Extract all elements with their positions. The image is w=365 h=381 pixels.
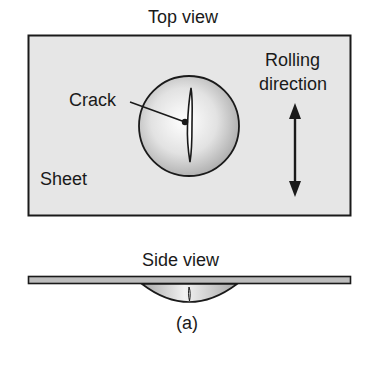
side-view-title: Side view bbox=[142, 251, 219, 269]
sheet-label: Sheet bbox=[40, 170, 87, 188]
top-view-title: Top view bbox=[148, 8, 218, 26]
side-view-crack bbox=[189, 287, 191, 301]
crack-leader-dot bbox=[182, 119, 188, 125]
side-view-sheet-bar bbox=[29, 277, 351, 284]
rolling-direction-label-line2: direction bbox=[259, 75, 327, 93]
rolling-direction-label-line1: Rolling bbox=[265, 51, 320, 69]
figure-canvas: Top view Crack Rolling direction Sheet S… bbox=[0, 0, 365, 381]
figure-label: (a) bbox=[176, 314, 198, 332]
crack-label: Crack bbox=[69, 91, 116, 109]
